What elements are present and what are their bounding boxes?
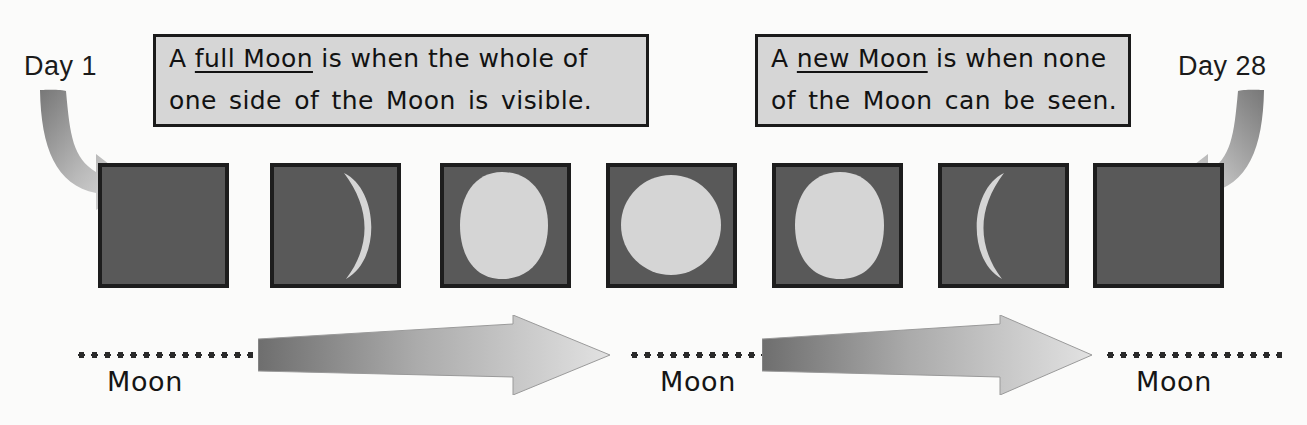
dotted-line-right [1104,352,1282,358]
full-moon-term: full Moon [195,44,313,73]
moon-caption-middle: Moon [660,366,736,397]
phase-box-waning-gibbous [772,163,903,288]
moon-caption-left: Moon [107,366,183,397]
new-moon-term: new Moon [797,44,928,73]
new-moon-callout-line2: of the Moon can be seen. [771,80,1115,122]
day-end-label: Day 28 [1178,51,1267,82]
dotted-line-left [75,352,253,358]
moon-caption-right: Moon [1136,366,1212,397]
phase-box-new-moon-end [1093,163,1224,288]
moon-phases-diagram: Day 1 Day 28 [0,0,1307,425]
full-moon-line1-suffix: is when the whole of [313,44,588,73]
cycle-arrow-1 [258,315,610,395]
phase-box-full-moon [606,163,737,288]
phase-box-new-moon-start [98,163,229,288]
full-moon-callout-line2: one side of the Moon is visible. [169,80,633,122]
new-moon-callout: A new Moon is when none of the Moon can … [755,34,1131,127]
full-moon-line1-prefix: A [169,44,195,73]
new-moon-callout-line1: A new Moon is when none [771,38,1115,80]
new-moon-line1-prefix: A [771,44,797,73]
phase-box-waxing-gibbous [440,163,571,288]
full-moon-callout-line1: A full Moon is when the whole of [169,38,633,80]
new-moon-line1-suffix: is when none [928,44,1107,73]
full-moon-callout: A full Moon is when the whole of one sid… [153,34,649,127]
cycle-arrow-2 [762,315,1092,395]
day-start-label: Day 1 [24,51,97,82]
phase-box-waxing-crescent [270,163,401,288]
phase-box-waning-crescent [938,163,1069,288]
